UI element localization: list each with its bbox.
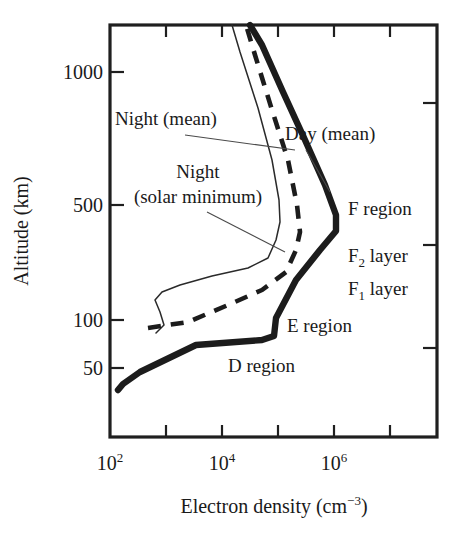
- chart-figure: 1000 500 100 50 102 104 106 Electron den…: [0, 0, 462, 534]
- x-axis-ticks-bottom: [166, 425, 390, 437]
- svg-text:102: 102: [97, 450, 124, 474]
- leader-night-mean: [185, 135, 295, 150]
- label-night-solar-minimum-line1: Night: [176, 161, 220, 182]
- label-e-region: E region: [287, 315, 352, 336]
- y-axis-ticks-right: [423, 103, 437, 348]
- y-tick-label-100: 100: [73, 309, 103, 331]
- label-night-mean: Night (mean): [115, 108, 217, 130]
- x-tick-label-1e6: 106: [321, 450, 348, 474]
- label-f1-layer: F1 layer: [348, 278, 408, 303]
- label-f-region: F region: [348, 198, 412, 219]
- y-tick-label-1000: 1000: [63, 61, 103, 83]
- leader-day-mean: [306, 150, 330, 192]
- x-tick-label-1e2: 102: [97, 450, 124, 474]
- y-tick-label-500: 500: [73, 194, 103, 216]
- label-d-region: D region: [228, 355, 296, 376]
- y-tick-label-50: 50: [83, 357, 103, 379]
- x-axis-ticks-top: [166, 25, 390, 37]
- y-axis-title: Altitude (km): [10, 176, 33, 285]
- label-f2-layer: F2 layer: [348, 245, 408, 270]
- svg-text:104: 104: [209, 450, 236, 474]
- svg-text:106: 106: [321, 450, 348, 474]
- x-tick-label-1e4: 104: [209, 450, 236, 474]
- x-axis-title: Electron density (cm−3): [180, 493, 367, 518]
- curve-night-mean: [148, 25, 300, 328]
- ionosphere-electron-density-plot: 1000 500 100 50 102 104 106 Electron den…: [0, 0, 462, 534]
- label-day-mean: Day (mean): [285, 123, 375, 145]
- leader-night-solar-minimum: [207, 212, 285, 252]
- label-night-solar-minimum-line2: (solar minimum): [134, 186, 262, 208]
